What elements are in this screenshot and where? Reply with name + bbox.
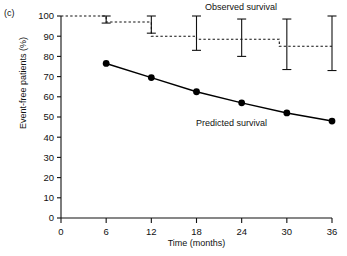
predicted-survival-label: Predicted survival: [196, 118, 267, 128]
series-predicted-survival: [103, 60, 336, 124]
x-axis: 061218243036: [58, 218, 337, 237]
x-tick-label: 30: [282, 226, 293, 237]
predicted-survival-point: [238, 99, 245, 106]
panel-label: (c): [4, 8, 15, 18]
x-tick-label: 12: [146, 226, 157, 237]
observed-survival-label: Observed survival: [205, 2, 277, 12]
series-observed-survival: [61, 16, 337, 71]
y-tick-label: 80: [43, 51, 54, 62]
y-tick-label: 0: [49, 212, 54, 223]
y-axis: 0102030405060708090100: [38, 10, 61, 223]
observed-survival-errorbar: [102, 16, 111, 23]
observed-survival-errorbar: [237, 19, 246, 56]
y-tick-label: 30: [43, 152, 54, 163]
y-tick-label: 100: [38, 10, 54, 21]
y-tick-label: 50: [43, 111, 54, 122]
observed-survival-errorbar: [147, 16, 156, 33]
y-axis-title: Event-free patients (%): [18, 8, 28, 158]
x-tick-label: 24: [236, 226, 247, 237]
predicted-survival-line: [106, 63, 332, 121]
y-tick-label: 90: [43, 31, 54, 42]
x-axis-title: Time (months): [61, 238, 332, 248]
observed-survival-errorbar: [192, 16, 201, 50]
predicted-survival-point: [103, 60, 110, 67]
predicted-survival-point: [329, 118, 336, 125]
x-tick-label: 0: [58, 226, 63, 237]
chart-plot-area: 0102030405060708090100 061218243036: [0, 0, 347, 256]
predicted-survival-point: [148, 74, 155, 81]
y-tick-label: 40: [43, 132, 54, 143]
observed-survival-errorbar: [282, 19, 291, 70]
x-tick-label: 6: [104, 226, 109, 237]
y-tick-label: 70: [43, 71, 54, 82]
x-tick-label: 36: [327, 226, 338, 237]
predicted-survival-point: [193, 88, 200, 95]
y-tick-label: 60: [43, 91, 54, 102]
predicted-survival-point: [283, 110, 290, 117]
x-tick-label: 18: [191, 226, 202, 237]
observed-survival-errorbar: [328, 16, 337, 71]
y-tick-label: 20: [43, 172, 54, 183]
figure-panel-c: (c) Event-free patients (%) Time (months…: [0, 0, 347, 256]
y-tick-label: 10: [43, 192, 54, 203]
